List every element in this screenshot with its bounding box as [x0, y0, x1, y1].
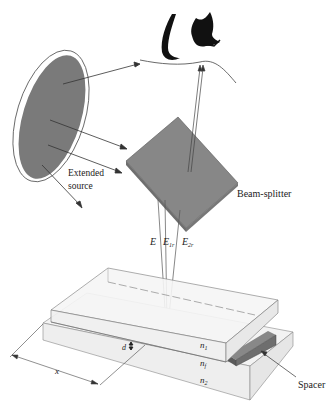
label-beam-splitter: Beam-splitter: [237, 188, 292, 199]
beam-splitter: [126, 117, 238, 232]
eye-icon: [162, 12, 220, 60]
label-E2r: E2r: [181, 236, 194, 248]
label-x: x: [54, 366, 59, 376]
label-source: source: [68, 181, 93, 191]
label-E: E: [149, 236, 156, 247]
wedge-interferometer-diagram: E E1r E2r d n1 nf n2 x: [0, 0, 333, 410]
label-E1r: E1r: [162, 236, 175, 248]
label-extended: Extended: [68, 168, 104, 178]
label-spacer: Spacer: [298, 379, 326, 390]
observation-line: [140, 60, 236, 83]
